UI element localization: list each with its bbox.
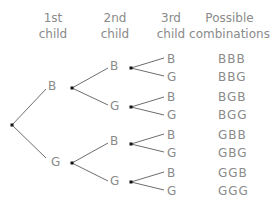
node-dot-GB — [130, 143, 133, 146]
combination: BGB — [218, 90, 247, 104]
node-dot-BB — [130, 67, 133, 70]
level2-label: B — [110, 59, 118, 73]
level2-label: B — [110, 134, 118, 148]
branch-G-B — [72, 143, 108, 163]
level3-label: B — [167, 166, 175, 180]
combination: GBG — [218, 146, 248, 160]
branch-GB-G — [131, 144, 164, 152]
branch-root-G — [12, 125, 46, 158]
level3-label: B — [167, 90, 175, 104]
branch-B-G — [72, 88, 108, 105]
level3-label: G — [167, 184, 176, 198]
combination: BBB — [218, 52, 246, 66]
branch-GB-B — [131, 134, 164, 144]
combination: GGG — [218, 184, 249, 198]
branch-BG-G — [131, 107, 164, 115]
combination: BGG — [218, 108, 248, 122]
tree-nodes — [11, 67, 133, 184]
branch-G-G — [72, 163, 108, 181]
combination: GBB — [218, 128, 247, 142]
level1-label: G — [51, 155, 60, 169]
level3-label: G — [167, 70, 176, 84]
branch-BG-B — [131, 97, 164, 107]
branch-B-B — [72, 68, 108, 88]
node-dot-GG — [130, 181, 133, 184]
branch-BB-G — [131, 68, 164, 76]
tree-diagram: B G B G B G B G B G B G B G BBB BBG BGB … — [0, 0, 274, 203]
level3-label: G — [167, 108, 176, 122]
combination: GGB — [218, 166, 248, 180]
combination: BBG — [218, 70, 247, 84]
level2-label: G — [110, 99, 119, 113]
level3-label: B — [167, 52, 175, 66]
root-node-dot — [11, 124, 14, 127]
branch-GG-B — [131, 172, 164, 182]
branch-BB-B — [131, 58, 164, 68]
node-dot-BG — [130, 106, 133, 109]
level2-label: G — [110, 174, 119, 188]
branch-GG-G — [131, 182, 164, 190]
node-dot-B — [71, 87, 74, 90]
branch-root-B — [12, 89, 46, 125]
level3-label: G — [167, 146, 176, 160]
tree-branches — [12, 58, 164, 190]
level3-label: B — [167, 128, 175, 142]
level1-label: B — [48, 79, 56, 93]
node-dot-G — [71, 162, 74, 165]
